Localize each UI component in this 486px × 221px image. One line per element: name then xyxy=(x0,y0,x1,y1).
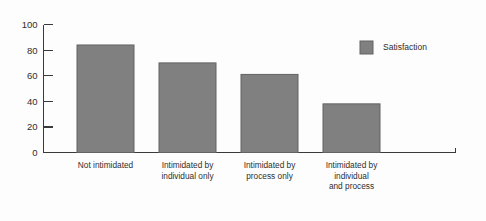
bar[interactable] xyxy=(77,45,134,153)
bar[interactable] xyxy=(159,63,216,153)
y-axis-tick-label: 100 xyxy=(22,19,38,30)
x-axis-category-label: Not intimidated xyxy=(78,160,134,170)
y-axis-tick-label: 60 xyxy=(27,70,38,81)
y-axis-tick-label: 40 xyxy=(27,96,38,107)
y-axis-tick-labels: 020406080100 xyxy=(22,19,38,158)
bar[interactable] xyxy=(323,104,380,153)
y-axis-tick-label: 0 xyxy=(32,147,37,158)
y-axis-tick-label: 80 xyxy=(27,45,38,56)
bar[interactable] xyxy=(241,74,298,152)
chart-legend: Satisfaction xyxy=(360,41,427,54)
chart-canvas: 020406080100 Not intimidatedIntimidated … xyxy=(0,0,486,221)
bar-chart: 020406080100 Not intimidatedIntimidated … xyxy=(0,0,486,221)
legend-label: Satisfaction xyxy=(383,42,427,52)
y-axis-ticks xyxy=(44,25,53,127)
x-axis-category-label: Intimidated byindividualand process xyxy=(326,160,379,191)
bar-series-satisfaction xyxy=(77,45,380,153)
y-axis: 020406080100 xyxy=(22,19,53,158)
x-axis-category-labels: Not intimidatedIntimidated byindividual … xyxy=(78,160,378,191)
x-axis-category-label: Intimidated byprocess only xyxy=(244,160,297,181)
x-axis-category-label: Intimidated byindividual only xyxy=(161,160,214,181)
legend-swatch xyxy=(360,41,373,54)
y-axis-tick-label: 20 xyxy=(27,121,38,132)
